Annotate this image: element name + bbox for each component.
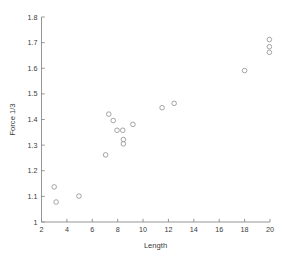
x-axis-title: Length <box>144 241 167 250</box>
x-tick-label: 16 <box>215 225 223 234</box>
y-tick-label: 1.3 <box>28 141 38 150</box>
x-tick-label: 20 <box>266 225 274 234</box>
x-tick-label: 6 <box>90 225 94 234</box>
y-tick-label: 1.2 <box>28 166 38 175</box>
y-tick-label: 1 <box>34 218 38 227</box>
y-tick-label: 1.7 <box>28 38 38 47</box>
scatter-plot-figure: 11.11.21.31.41.51.61.71.8 24681012141618… <box>0 0 288 260</box>
x-tick-label: 8 <box>116 225 120 234</box>
y-tick-label: 1.5 <box>28 89 38 98</box>
plot-canvas: 11.11.21.31.41.51.61.71.8 24681012141618… <box>0 0 288 260</box>
y-axis-title: Force 1/3 <box>8 103 17 135</box>
y-tick-label: 1.1 <box>28 192 38 201</box>
x-tick-label: 2 <box>40 225 44 234</box>
x-tick-label: 14 <box>190 225 198 234</box>
y-tick-label: 1.8 <box>28 13 38 22</box>
y-tick-label: 1.6 <box>28 64 38 73</box>
x-tick-label: 18 <box>241 225 249 234</box>
x-tick-label: 12 <box>164 225 172 234</box>
x-tick-label: 10 <box>139 225 147 234</box>
x-tick-label: 4 <box>65 225 69 234</box>
y-tick-label: 1.4 <box>28 115 38 124</box>
